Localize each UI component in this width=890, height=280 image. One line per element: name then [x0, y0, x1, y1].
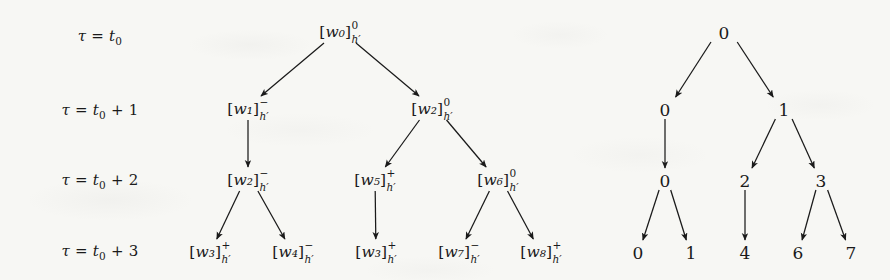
time-label-t0p3: τ = t0 + 3 — [62, 244, 139, 262]
tree-node-L10: [w₈]+h′ — [520, 244, 561, 262]
node-word-symbol: w₀ — [325, 23, 344, 41]
tree-edge-R0-R1 — [676, 42, 711, 97]
tree-edge-L3-L7 — [258, 191, 285, 239]
tree-edge-R5-R9 — [802, 190, 816, 240]
tree-edge-R0-R2 — [737, 42, 773, 97]
node-scripts: 0h′ — [351, 24, 360, 42]
tree-node-L2: [w₂]0h′ — [411, 101, 452, 119]
node-subscript-hprime: h′ — [304, 255, 313, 264]
tree-node-R5: 3 — [816, 173, 827, 190]
node-superscript-sign: + — [387, 241, 396, 250]
tree-node-L8: [w₃]+h′ — [355, 244, 396, 262]
tree-edge-R3-R6 — [643, 190, 659, 240]
close-bracket: ] — [215, 243, 221, 261]
tree-node-L5: [w₆]0h′ — [477, 172, 518, 190]
tree-edge-L0-L1 — [261, 43, 324, 96]
node-subscript-hprime: h′ — [351, 35, 360, 44]
tree-node-L7: [w₄]−h′ — [272, 244, 313, 262]
tree-node-L0: [w₀]0h′ — [319, 24, 360, 42]
node-word-symbol: w₇ — [444, 243, 463, 261]
node-subscript-hprime: h′ — [470, 255, 479, 264]
close-bracket: ] — [381, 243, 387, 261]
node-subscript-hprime: h′ — [552, 255, 561, 264]
close-bracket: ] — [464, 243, 470, 261]
node-superscript-sign: + — [386, 169, 395, 178]
tree-node-R0: 0 — [719, 25, 730, 42]
close-bracket: ] — [253, 171, 259, 189]
node-superscript-sign: 0 — [509, 169, 518, 178]
tree-node-R2: 1 — [779, 102, 790, 119]
close-bracket: ] — [546, 243, 552, 261]
node-word-symbol: w₅ — [360, 171, 379, 189]
node-subscript-hprime: h′ — [259, 183, 268, 192]
node-subscript-hprime: h′ — [509, 183, 518, 192]
tree-node-R8: 4 — [740, 245, 751, 262]
close-bracket: ] — [437, 100, 443, 118]
node-scripts: +h′ — [386, 172, 395, 190]
tree-node-L3: [w₂]−h′ — [227, 172, 268, 190]
tree-edge-L5-L10 — [508, 191, 534, 239]
node-word-symbol: w₄ — [278, 243, 297, 261]
tree-edge-L3-L6 — [217, 191, 240, 239]
tree-edges-layer — [0, 0, 890, 280]
tree-node-L6: [w₃]+h′ — [189, 244, 230, 262]
tree-node-L4: [w₅]+h′ — [354, 172, 395, 190]
node-superscript-sign: 0 — [351, 21, 360, 30]
node-scripts: −h′ — [259, 172, 268, 190]
node-superscript-sign: 0 — [443, 98, 452, 107]
node-superscript-sign: − — [259, 98, 268, 107]
node-word-symbol: w₈ — [526, 243, 545, 261]
node-word-symbol: w₃ — [361, 243, 380, 261]
tree-node-R7: 1 — [686, 245, 697, 262]
tree-node-R9: 6 — [793, 245, 804, 262]
tree-edge-R2-R4 — [752, 119, 775, 168]
node-superscript-sign: + — [221, 241, 230, 250]
tree-node-L9: [w₇]−h′ — [438, 244, 479, 262]
tree-node-R10: 7 — [846, 245, 857, 262]
close-bracket: ] — [298, 243, 304, 261]
node-scripts: +h′ — [387, 244, 396, 262]
node-word-symbol: w₃ — [195, 243, 214, 261]
tree-figure: τ = t0τ = t0 + 1τ = t0 + 2τ = t0 + 3 [w₀… — [0, 0, 890, 280]
time-label-t0: τ = t0 — [78, 29, 122, 47]
node-word-symbol: w₂ — [417, 100, 436, 118]
close-bracket: ] — [253, 100, 259, 118]
close-bracket: ] — [380, 171, 386, 189]
tree-node-R6: 0 — [633, 245, 644, 262]
close-bracket: ] — [503, 171, 509, 189]
node-superscript-sign: − — [304, 241, 313, 250]
node-scripts: +h′ — [552, 244, 561, 262]
node-subscript-hprime: h′ — [259, 112, 268, 121]
tree-edge-L2-L4 — [385, 120, 419, 167]
node-word-symbol: w₁ — [233, 100, 252, 118]
tree-edge-R5-R10 — [828, 190, 846, 240]
node-superscript-sign: + — [552, 241, 561, 250]
node-superscript-sign: − — [470, 241, 479, 250]
node-scripts: +h′ — [221, 244, 230, 262]
tree-node-R3: 0 — [660, 173, 671, 190]
node-scripts: −h′ — [259, 101, 268, 119]
tree-edge-R2-R5 — [792, 119, 814, 168]
close-bracket: ] — [345, 23, 351, 41]
tree-node-R4: 2 — [740, 173, 751, 190]
tree-edge-R3-R7 — [671, 190, 687, 240]
node-word-symbol: w₂ — [233, 171, 252, 189]
tree-node-R1: 0 — [660, 102, 671, 119]
node-scripts: −h′ — [470, 244, 479, 262]
node-scripts: 0h′ — [509, 172, 518, 190]
node-subscript-hprime: h′ — [387, 255, 396, 264]
node-subscript-hprime: h′ — [221, 255, 230, 264]
node-subscript-hprime: h′ — [443, 112, 452, 121]
node-scripts: 0h′ — [443, 101, 452, 119]
node-word-symbol: w₆ — [483, 171, 502, 189]
tree-edge-L5-L9 — [466, 191, 489, 239]
time-label-t0p1: τ = t0 + 1 — [62, 103, 139, 121]
tree-node-L1: [w₁]−h′ — [227, 101, 268, 119]
node-scripts: −h′ — [304, 244, 313, 262]
node-subscript-hprime: h′ — [386, 183, 395, 192]
tree-edge-L0-L2 — [356, 43, 419, 96]
time-label-t0p2: τ = t0 + 2 — [62, 173, 139, 191]
tree-edge-L4-L8 — [375, 191, 376, 239]
node-superscript-sign: − — [259, 169, 268, 178]
tree-edge-L2-L5 — [447, 120, 487, 167]
